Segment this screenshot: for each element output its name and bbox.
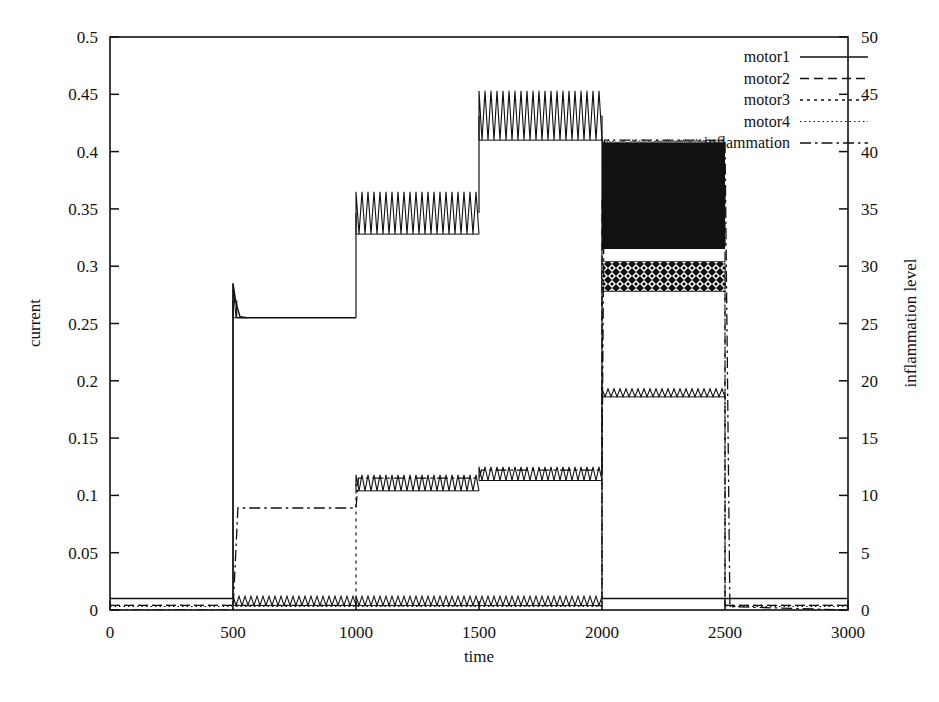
y-tick-label: 0	[90, 601, 99, 620]
y-tick-label: 0.3	[77, 257, 98, 276]
x-tick-label: 500	[220, 623, 246, 642]
y-tick-label: 0.25	[68, 315, 98, 334]
x-axis-title: time	[464, 647, 494, 666]
x-tick-label: 3000	[831, 623, 865, 642]
y-tick-label: 0.35	[68, 200, 98, 219]
y2-tick-label: 30	[861, 257, 878, 276]
legend-label-inflammation: inflammation	[704, 134, 790, 151]
x-tick-label: 2000	[585, 623, 619, 642]
y2-tick-label: 25	[861, 315, 878, 334]
y2-tick-label: 50	[861, 28, 878, 47]
y2-tick-label: 5	[861, 544, 870, 563]
y2-tick-label: 15	[861, 429, 878, 448]
x-tick-label: 1000	[339, 623, 373, 642]
chart-figure: 00.050.10.150.20.250.30.350.40.450.5 051…	[0, 0, 939, 702]
x-tick-label: 1500	[462, 623, 496, 642]
y-tick-label: 0.4	[77, 143, 99, 162]
y-tick-label: 0.5	[77, 28, 98, 47]
x-tick-label: 2500	[708, 623, 742, 642]
y2-tick-label: 45	[861, 85, 878, 104]
chart-canvas: 00.050.10.150.20.250.30.350.40.450.5 051…	[0, 0, 939, 702]
y-tick-label: 0.05	[68, 544, 98, 563]
series-motor3-band	[602, 262, 725, 292]
y-tick-label: 0.2	[77, 372, 98, 391]
y-tick-label: 0.1	[77, 486, 98, 505]
x-tick-label: 0	[106, 623, 115, 642]
y2-tick-label: 40	[861, 143, 878, 162]
legend-label-motor2: motor2	[744, 70, 790, 87]
y2-axis-title: inflammation level	[901, 258, 920, 387]
y2-tick-label: 10	[861, 486, 878, 505]
y-tick-label: 0.15	[68, 429, 98, 448]
y-axis-title: current	[25, 299, 44, 347]
y2-tick-label: 20	[861, 372, 878, 391]
y-tick-label: 0.45	[68, 85, 98, 104]
legend-label-motor4: motor4	[744, 113, 790, 130]
y2-tick-label: 0	[861, 601, 870, 620]
legend-label-motor1: motor1	[744, 48, 790, 65]
legend-label-motor3: motor3	[744, 91, 790, 108]
y2-tick-label: 35	[861, 200, 878, 219]
series-motor2-band	[602, 142, 725, 249]
